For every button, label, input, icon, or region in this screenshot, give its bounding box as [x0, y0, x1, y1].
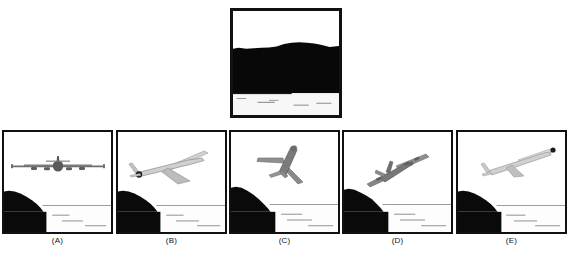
- shore-edge: [458, 212, 502, 232]
- horizon-line: [43, 205, 111, 206]
- option-label-b: (B): [116, 236, 227, 245]
- shore-edge: [118, 212, 161, 232]
- horizontal-stabilizer: [375, 170, 385, 177]
- reference-scene: [233, 11, 339, 115]
- aircraft-c-svg: [255, 142, 317, 190]
- aircraft-b-svg: [128, 148, 218, 192]
- shoreline-edge: [233, 93, 292, 94]
- engine-2: [44, 167, 50, 170]
- engine-4: [79, 167, 85, 170]
- water-region: [233, 93, 339, 115]
- wingtip-right: [103, 164, 105, 168]
- water-region: [160, 206, 225, 232]
- option-label-d: (D): [342, 236, 453, 245]
- option-panel-b[interactable]: [116, 130, 227, 234]
- tail-fin: [481, 163, 490, 173]
- engine-1: [31, 167, 37, 170]
- reference-scene-svg: [233, 11, 339, 115]
- aircraft-d: [360, 150, 438, 192]
- reference-panel: [230, 8, 342, 118]
- wing-left: [257, 158, 284, 163]
- shore-edge: [344, 212, 389, 232]
- water-region: [275, 205, 338, 232]
- option-panel-c[interactable]: [229, 130, 340, 234]
- water-region: [388, 205, 451, 232]
- aircraft-c: [255, 142, 317, 190]
- horizon-line: [157, 205, 225, 206]
- nose: [291, 146, 296, 152]
- aircraft-e: [480, 145, 564, 185]
- aircraft-e-svg: [480, 145, 564, 185]
- aircraft-a-svg: [10, 154, 106, 176]
- shore-edge: [231, 212, 276, 232]
- option-panel-d[interactable]: [342, 130, 453, 234]
- horizon-line: [383, 204, 451, 205]
- fuselage: [380, 162, 413, 182]
- option-label-c: (C): [229, 236, 340, 245]
- aircraft-a: [10, 154, 106, 176]
- options-row: (A) (B) (C) (D) (E): [0, 130, 571, 235]
- tail-fin: [56, 156, 59, 164]
- horizontal-stabilizer: [269, 171, 282, 178]
- scene-a-svg: [4, 132, 111, 232]
- water-region: [46, 206, 111, 232]
- engine-3: [66, 167, 72, 170]
- horizontal-stabilizer: [46, 161, 70, 162]
- water-region: [501, 206, 565, 232]
- option-label-e: (E): [456, 236, 567, 245]
- option-panel-a[interactable]: [2, 130, 113, 234]
- shore-edge: [4, 212, 47, 232]
- wingtip-left: [11, 164, 13, 168]
- land-silhouette: [233, 42, 339, 93]
- horizon-line: [497, 205, 565, 206]
- nose-marker: [550, 147, 555, 152]
- horizon-line: [270, 204, 338, 205]
- scene-a: [4, 132, 111, 232]
- aircraft-d-svg: [360, 150, 438, 192]
- wing-near: [162, 168, 190, 184]
- option-label-a: (A): [2, 236, 113, 245]
- aircraft-b: [128, 148, 218, 192]
- option-panel-e[interactable]: [456, 130, 567, 234]
